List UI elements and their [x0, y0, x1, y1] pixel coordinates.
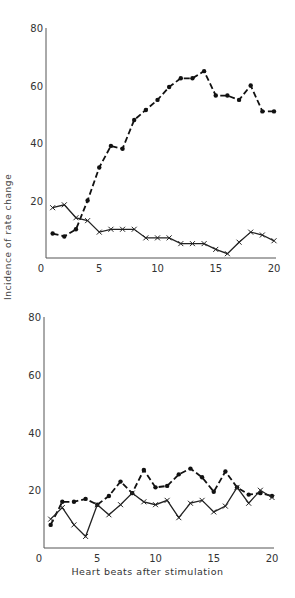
data-point-dot: [83, 497, 87, 501]
data-point-dot: [212, 489, 216, 493]
data-point-cross: [237, 240, 242, 245]
data-point-dot: [74, 227, 78, 231]
data-point-dot: [165, 484, 169, 488]
x-tick-label: 0: [36, 553, 42, 564]
data-point-dot: [120, 147, 124, 151]
x-axis-label: Heart beats after stimulation: [0, 566, 295, 577]
data-point-dot: [60, 500, 64, 504]
data-point-dot: [190, 76, 194, 80]
y-tick-label: 20: [28, 485, 41, 496]
data-point-cross: [106, 512, 111, 517]
data-point-dot: [179, 76, 183, 80]
y-tick-label: 20: [30, 196, 43, 207]
data-point-cross: [60, 505, 65, 510]
x-tick-label: 10: [149, 553, 162, 564]
chart-panel-2: 2040608005101520: [28, 312, 278, 564]
x-tick-label: 10: [151, 263, 164, 274]
data-point-dot: [62, 234, 66, 238]
data-point-dot: [142, 468, 146, 472]
x-tick-label: 20: [268, 263, 281, 274]
data-point-dot: [272, 109, 276, 113]
y-axis-label: Incidence of rate change: [3, 174, 13, 300]
data-point-dot: [107, 494, 111, 498]
data-point-cross: [48, 517, 53, 522]
x-tick-label: 5: [94, 553, 100, 564]
data-point-cross: [71, 522, 76, 527]
data-point-dot: [260, 109, 264, 113]
data-point-dot: [223, 469, 227, 473]
data-point-dot: [247, 492, 251, 496]
data-point-dot: [132, 118, 136, 122]
data-point-cross: [176, 515, 181, 520]
data-point-dot: [249, 83, 253, 87]
x-tick-label: 15: [207, 553, 220, 564]
x-tick-label: 0: [38, 263, 44, 274]
data-point-dot: [237, 98, 241, 102]
data-point-cross: [165, 498, 170, 503]
data-point-dot: [85, 198, 89, 202]
chart-panel-1: 2040608005101520: [30, 23, 280, 274]
y-tick-label: 60: [28, 370, 41, 381]
data-point-cross: [118, 502, 123, 507]
y-tick-label: 80: [28, 312, 41, 323]
y-tick-label: 40: [30, 138, 43, 149]
data-point-cross: [246, 501, 251, 506]
x-tick-label: 5: [96, 263, 102, 274]
data-point-dot: [155, 98, 159, 102]
data-point-dot: [188, 466, 192, 470]
y-tick-label: 80: [30, 23, 43, 34]
data-point-dot: [177, 472, 181, 476]
data-point-dot: [48, 523, 52, 527]
data-point-cross: [211, 509, 216, 514]
y-tick-label: 40: [28, 428, 41, 439]
data-point-dot: [50, 231, 54, 235]
data-point-dot: [118, 479, 122, 483]
series-line-solid-crosses: [53, 205, 274, 254]
figure-canvas: 20406080051015202040608005101520: [0, 0, 295, 598]
data-point-dot: [144, 108, 148, 112]
data-point-dot: [225, 93, 229, 97]
data-point-cross: [223, 504, 228, 509]
series-line-dashed-dots: [51, 469, 272, 525]
data-point-dot: [72, 500, 76, 504]
data-point-dot: [167, 85, 171, 89]
data-point-dot: [214, 93, 218, 97]
series-line-solid-crosses: [51, 487, 272, 536]
y-tick-label: 60: [30, 81, 43, 92]
data-point-dot: [109, 144, 113, 148]
x-tick-label: 15: [209, 263, 222, 274]
series-line-dashed-dots: [53, 71, 274, 236]
data-point-dot: [202, 69, 206, 73]
data-point-dot: [97, 165, 101, 169]
x-tick-label: 20: [266, 553, 279, 564]
data-point-dot: [153, 485, 157, 489]
data-point-dot: [200, 475, 204, 479]
data-point-cross: [272, 238, 277, 243]
